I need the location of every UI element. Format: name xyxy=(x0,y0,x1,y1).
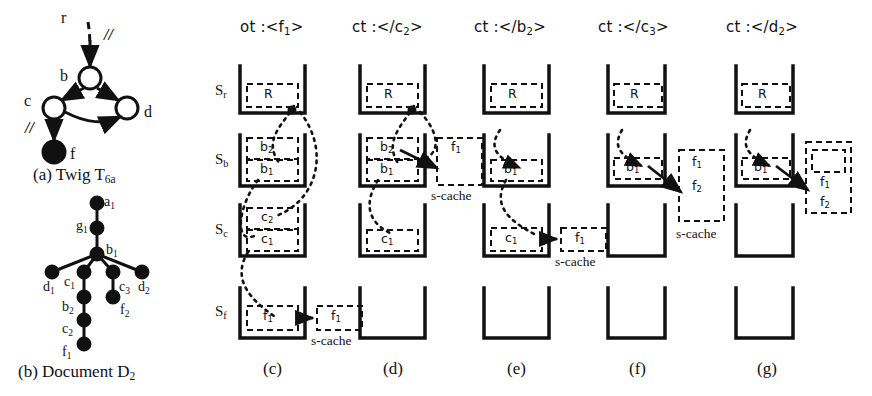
doc-label-f2: f2 xyxy=(120,303,129,319)
panel-e-cell-label-c1: c1 xyxy=(505,232,517,246)
doc-node-c3 xyxy=(107,266,119,278)
doc-label-c2: c2 xyxy=(62,322,73,338)
stack-label-Sc: Sc xyxy=(215,222,228,239)
doc-label-c1: c1 xyxy=(64,275,75,291)
twig-edge-mark-cf: // xyxy=(25,120,34,136)
panel-c-header: ot :<f1> xyxy=(240,20,303,37)
panel-e-ptr-Sc-Sb xyxy=(501,180,534,234)
twig-label-f: f xyxy=(70,146,75,162)
document-caption: (b) Document D2 xyxy=(18,363,135,383)
panel-d-cell-label-c1: c1 xyxy=(381,233,393,247)
panel-c-cell-label-b1: b1 xyxy=(260,163,273,177)
doc-label-b1: b1 xyxy=(106,243,118,259)
twig-diagram xyxy=(43,22,138,163)
panel-f-stack-Sf-outline xyxy=(608,288,665,338)
twig-edge-b-d xyxy=(97,88,118,100)
twig-edge-c-d-link xyxy=(65,112,120,122)
panel-g-header: ct :</d2> xyxy=(726,20,798,37)
panel-e-cell-label-R: R xyxy=(508,88,517,101)
figure-root: r b c d f // // (a) Twig T6a a1 g1 b1 d1… xyxy=(0,0,872,396)
twig-label-c: c xyxy=(24,93,31,109)
panel-d-scache-caption: s-cache xyxy=(431,189,471,203)
doc-node-d1 xyxy=(46,266,58,278)
twig-label-r: r xyxy=(61,10,66,26)
panel-f-vector xyxy=(608,66,724,338)
panel-c-cache-label-f1: f1 xyxy=(331,310,341,324)
doc-label-a1: a1 xyxy=(104,195,115,211)
panel-c-scache-caption: s-cache xyxy=(311,334,351,348)
panel-d-ptr-Sb-Sc xyxy=(370,180,392,234)
twig-edge-mark-rb: // xyxy=(104,27,113,43)
panel-g-stack-Sc-outline xyxy=(736,205,793,256)
doc-node-c1 xyxy=(78,266,90,278)
panel-c-cell-label-b2: b2 xyxy=(260,141,273,155)
doc-node-g1 xyxy=(91,222,103,234)
panel-e-cell-label-b1: b1 xyxy=(504,163,517,177)
panel-d-cell-label-b2: b2 xyxy=(380,141,393,155)
panel-e-caption: (e) xyxy=(507,360,526,377)
twig-label-d: d xyxy=(144,104,152,120)
panel-e-cache-label-f1: f1 xyxy=(575,232,585,246)
panel-f-cache-label-f2: f2 xyxy=(692,180,702,194)
stack-label-Sf: Sf xyxy=(215,304,227,321)
panel-f-stack-Sc-outline xyxy=(608,205,665,256)
panel-c-ptr-Sb-Sc xyxy=(276,112,317,216)
doc-node-b1 xyxy=(91,248,103,260)
doc-label-f1: f1 xyxy=(62,345,71,361)
twig-node-c xyxy=(43,97,65,119)
doc-node-f2 xyxy=(107,291,119,303)
twig-node-f xyxy=(43,141,65,163)
panel-c-caption: (c) xyxy=(263,360,282,377)
stack-label-Sr: Sr xyxy=(215,83,227,100)
panel-f-header: ct :</c3> xyxy=(598,20,669,37)
panel-g-stack-Sf-outline xyxy=(736,288,793,338)
panel-g-cache-label-f1: f1 xyxy=(820,176,830,190)
panel-c-vector xyxy=(240,66,362,338)
panel-d-cache-label-f1: f1 xyxy=(451,141,461,155)
panel-d-cell-label-R: R xyxy=(384,88,393,101)
panel-g-caption: (g) xyxy=(757,360,777,377)
panel-d-cell-label-b1: b1 xyxy=(380,163,393,177)
doc-label-d2: d2 xyxy=(138,280,150,296)
panel-d-dot-Sr xyxy=(408,106,417,115)
panel-f-caption: (f) xyxy=(629,360,646,377)
panel-g-cache-inner-cell xyxy=(812,150,845,172)
doc-node-c2 xyxy=(78,314,90,326)
panel-c-cell-label-f1: f1 xyxy=(263,310,273,324)
panel-g-cell-label-R: R xyxy=(758,88,767,101)
panel-f-scache-caption: s-cache xyxy=(676,227,716,241)
panel-c-cell-label-R: R xyxy=(264,88,273,101)
panel-d-ptr-Sr-Sb xyxy=(393,106,414,166)
doc-node-d2 xyxy=(136,266,148,278)
panel-e-header: ct :</b2> xyxy=(474,20,546,37)
panel-f-cache-label-f1: f1 xyxy=(692,156,702,170)
doc-node-f1 xyxy=(78,338,90,350)
twig-label-b: b xyxy=(60,68,68,84)
panel-g-vector xyxy=(736,66,851,338)
panel-g-cell-label-b1: b1 xyxy=(754,161,767,175)
panel-f-cell-label-b1: b1 xyxy=(626,161,639,175)
twig-node-b xyxy=(79,67,101,89)
stack-label-Sb: Sb xyxy=(215,152,228,169)
panel-c-cell-label-c2: c2 xyxy=(261,211,273,225)
twig-caption: (a) Twig T6a xyxy=(33,166,116,186)
doc-node-b2 xyxy=(78,291,90,303)
panel-d-caption: (d) xyxy=(383,360,403,377)
panel-g-cache-label-f2: f2 xyxy=(820,196,830,210)
doc-label-b2: b2 xyxy=(62,300,74,316)
panel-d-header: ct :</c2> xyxy=(352,20,423,37)
panel-e-scache-caption: s-cache xyxy=(555,255,595,269)
panel-e-stack-Sc-outline xyxy=(484,205,549,256)
twig-edge-b-c xyxy=(62,88,84,100)
panel-f-cell-label-R: R xyxy=(630,88,639,101)
panel-e-stack-Sf-outline xyxy=(484,288,549,338)
doc-label-c3: c3 xyxy=(119,280,130,296)
doc-label-d1: d1 xyxy=(43,280,55,296)
panel-d-stack-Sf-outline xyxy=(360,288,425,338)
panel-c-dot-Sr xyxy=(288,106,297,115)
doc-node-a1 xyxy=(91,197,103,209)
panel-e-vector xyxy=(484,66,606,338)
panel-c-cell-label-c1: c1 xyxy=(261,233,273,247)
doc-label-g1: g1 xyxy=(76,219,88,235)
